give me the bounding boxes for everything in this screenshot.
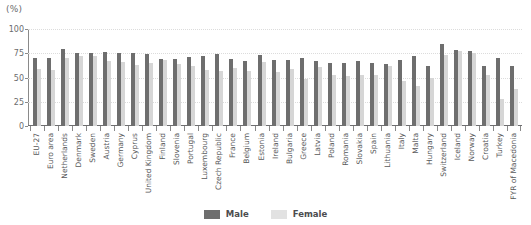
x-axis-label: Netherlands xyxy=(61,133,69,179)
bar-female[interactable] xyxy=(514,89,518,126)
bar-female[interactable] xyxy=(472,53,476,126)
x-axis-label-cell: Turkey xyxy=(493,133,507,195)
bar-group[interactable] xyxy=(409,29,423,126)
y-axis-unit-label: (%) xyxy=(6,4,22,14)
bar-group[interactable] xyxy=(58,29,72,126)
bar-female[interactable] xyxy=(191,66,195,126)
bar-group[interactable] xyxy=(184,29,198,126)
bar-female[interactable] xyxy=(290,69,294,126)
x-axis-tick xyxy=(297,126,311,131)
bar-group[interactable] xyxy=(423,29,437,126)
x-axis-label: Greece xyxy=(300,133,308,160)
x-axis-label-cell: Iceland xyxy=(451,133,465,195)
x-axis-tick xyxy=(30,126,44,131)
bar-group[interactable] xyxy=(240,29,254,126)
bar-female[interactable] xyxy=(374,75,378,126)
bar-group[interactable] xyxy=(226,29,240,126)
bar-female[interactable] xyxy=(233,68,237,126)
bar-group[interactable] xyxy=(170,29,184,126)
x-axis-label: Finland xyxy=(159,133,167,160)
x-axis-label-cell: Italy xyxy=(395,133,409,195)
bar-group[interactable] xyxy=(156,29,170,126)
bar-female[interactable] xyxy=(121,62,125,126)
bar-group[interactable] xyxy=(493,29,507,126)
bar-female[interactable] xyxy=(135,65,139,126)
bar-female[interactable] xyxy=(149,63,153,126)
bar-group[interactable] xyxy=(128,29,142,126)
bar-female[interactable] xyxy=(65,58,69,126)
bar-female[interactable] xyxy=(304,79,308,126)
bar-group[interactable] xyxy=(367,29,381,126)
x-axis-label: Turkey xyxy=(496,133,504,157)
bar-group[interactable] xyxy=(142,29,156,126)
legend-label-male: Male xyxy=(226,209,249,219)
bar-group[interactable] xyxy=(30,29,44,126)
x-axis-tick xyxy=(465,126,479,131)
x-axis-label: Portugal xyxy=(187,133,195,164)
bar-female[interactable] xyxy=(177,64,181,126)
bar-group[interactable] xyxy=(465,29,479,126)
legend-item-male[interactable]: Male xyxy=(204,209,249,219)
bar-female[interactable] xyxy=(402,81,406,126)
bar-female[interactable] xyxy=(500,99,504,126)
bar-female[interactable] xyxy=(360,75,364,126)
x-axis-label: Sweden xyxy=(89,133,97,163)
bar-group[interactable] xyxy=(44,29,58,126)
bar-female[interactable] xyxy=(205,70,209,126)
x-axis-label: Lithuania xyxy=(384,133,392,168)
bar-female[interactable] xyxy=(51,70,55,126)
x-axis-tick xyxy=(198,126,212,131)
bar-group[interactable] xyxy=(72,29,86,126)
bar-female[interactable] xyxy=(416,86,420,126)
bar-female[interactable] xyxy=(163,60,167,126)
x-axis-tick xyxy=(269,126,283,131)
bar-group[interactable] xyxy=(311,29,325,126)
bar-group[interactable] xyxy=(114,29,128,126)
bar-group[interactable] xyxy=(479,29,493,126)
bar-group[interactable] xyxy=(198,29,212,126)
bar-female[interactable] xyxy=(458,51,462,126)
bar-female[interactable] xyxy=(430,78,434,127)
x-axis-label-cell: Finland xyxy=(156,133,170,195)
bar-female[interactable] xyxy=(79,56,83,126)
x-axis-label: Estonia xyxy=(258,133,266,161)
bar-female[interactable] xyxy=(93,56,97,126)
bar-female[interactable] xyxy=(318,67,322,126)
bar-group[interactable] xyxy=(339,29,353,126)
x-axis-tick xyxy=(381,126,395,131)
bar-female[interactable] xyxy=(107,61,111,126)
legend-item-female[interactable]: Female xyxy=(271,209,328,219)
bar-group[interactable] xyxy=(381,29,395,126)
x-axis-label: Norway xyxy=(468,133,476,161)
bar-female[interactable] xyxy=(247,71,251,126)
bar-group[interactable] xyxy=(283,29,297,126)
bar-female[interactable] xyxy=(219,71,223,126)
x-axis-label-cell: Croatia xyxy=(479,133,493,195)
bar-group[interactable] xyxy=(269,29,283,126)
bar-group[interactable] xyxy=(86,29,100,126)
x-axis-tick xyxy=(255,126,269,131)
bar-group[interactable] xyxy=(100,29,114,126)
bar-female[interactable] xyxy=(276,72,280,126)
x-axis-tick xyxy=(72,126,86,131)
bar-female[interactable] xyxy=(388,66,392,126)
bar-group[interactable] xyxy=(325,29,339,126)
bar-group[interactable] xyxy=(395,29,409,126)
bar-female[interactable] xyxy=(486,75,490,126)
bar-group[interactable] xyxy=(437,29,451,126)
x-axis-label-cell: Netherlands xyxy=(58,133,72,195)
legend-swatch-female-icon xyxy=(271,210,287,219)
bar-group[interactable] xyxy=(353,29,367,126)
bar-group[interactable] xyxy=(255,29,269,126)
bar-female[interactable] xyxy=(37,69,41,126)
bar-group[interactable] xyxy=(451,29,465,126)
x-axis-tick xyxy=(395,126,409,131)
bar-female[interactable] xyxy=(332,75,336,126)
bar-group[interactable] xyxy=(297,29,311,126)
x-axis-label-cell: Luxembourg xyxy=(198,133,212,195)
bar-female[interactable] xyxy=(346,76,350,126)
bar-group[interactable] xyxy=(507,29,521,126)
bar-group[interactable] xyxy=(212,29,226,126)
bar-female[interactable] xyxy=(444,55,448,126)
bar-female[interactable] xyxy=(262,62,266,126)
